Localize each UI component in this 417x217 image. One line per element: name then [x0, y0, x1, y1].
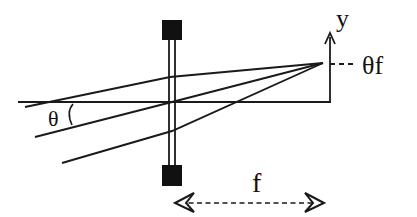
ray-lower — [62, 63, 323, 163]
y-axis — [325, 33, 335, 102]
focal-length-label: f — [252, 167, 262, 198]
y-axis-label: y — [336, 4, 349, 33]
angle-label: θ — [48, 106, 59, 131]
focal-length-arrow — [175, 193, 324, 212]
thin-lens-ray-diagram: y θf θ f — [0, 0, 417, 217]
lens-mount-bottom — [162, 165, 182, 186]
image-height-label: θf — [362, 51, 383, 80]
angle-arc — [69, 104, 73, 125]
ray-chief — [35, 63, 323, 137]
ray-upper — [25, 63, 323, 107]
lens-mount-top — [162, 20, 182, 40]
